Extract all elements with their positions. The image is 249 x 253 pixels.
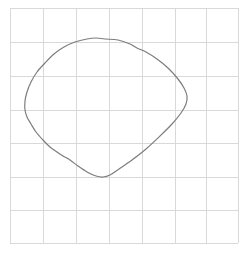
figure-container bbox=[0, 0, 249, 253]
plot-background bbox=[0, 0, 249, 253]
plot-canvas bbox=[0, 0, 249, 253]
